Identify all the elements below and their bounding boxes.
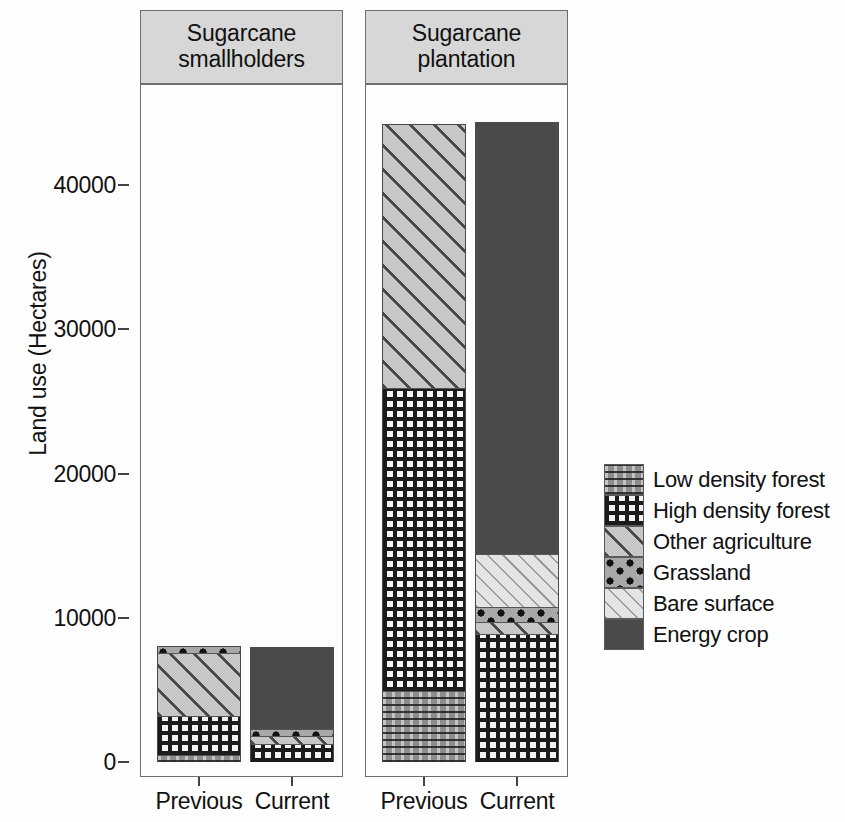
panel-header-plantation: Sugarcane plantation [365, 10, 568, 84]
x-axis-tick-mark [516, 777, 518, 786]
legend-swatch-other-agriculture [604, 526, 644, 557]
legend-swatch-high-density-forest [604, 495, 644, 526]
y-axis-tick-label: 20000 [54, 460, 116, 487]
bar-segment-other-agriculture [383, 125, 465, 389]
legend-label: Low density forest [653, 467, 825, 493]
x-axis-tick-mark [198, 777, 200, 786]
legend-item-other-agriculture: Other agriculture [604, 526, 830, 557]
legend-label: High density forest [653, 498, 830, 524]
bar-segment-bare-surface [476, 555, 558, 608]
y-axis-tick-mark [118, 473, 129, 475]
legend-item-high-density-forest: High density forest [604, 495, 830, 526]
bar-segment-other-agriculture [158, 654, 240, 718]
y-axis-tick-label: 10000 [54, 604, 116, 631]
y-axis-tick-mark [118, 328, 129, 330]
bar-segment-other-agriculture [476, 623, 558, 635]
panel-title-line1: Sugarcane [187, 20, 296, 46]
bar-segment-grassland [476, 608, 558, 623]
panel-header-smallholders: Sugarcane smallholders [140, 10, 343, 84]
bar-segment-low-density-forest [383, 692, 465, 762]
legend-swatch-low-density-forest [604, 464, 644, 495]
bar-segment-high-density-forest [476, 635, 558, 762]
y-axis-tick-label: 0 [104, 749, 117, 776]
bar-segment-grassland [251, 730, 333, 737]
y-axis-tick-mark [118, 617, 129, 619]
stacked-bar [475, 122, 559, 762]
bar-segment-high-density-forest [158, 717, 240, 756]
bar-segment-energy-crop [476, 123, 558, 555]
panel-title-line2: smallholders [178, 46, 305, 72]
chart-root: Land use (Hectares) 01000020000300004000… [0, 0, 845, 822]
panel-title-line1: Sugarcane [412, 20, 521, 46]
panel-title-line2: plantation [418, 46, 516, 72]
x-axis-label: Current [230, 788, 354, 815]
legend-swatch-energy-crop [604, 619, 644, 650]
legend-swatch-bare-surface [604, 588, 644, 619]
legend-item-bare-surface: Bare surface [604, 588, 830, 619]
stacked-bar [250, 647, 334, 762]
bar-segment-high-density-forest [251, 745, 333, 762]
bar-segment-high-density-forest [383, 389, 465, 692]
y-axis: 010000200003000040000 [0, 0, 132, 822]
legend-label: Bare surface [653, 591, 774, 617]
bar-segment-energy-crop [251, 648, 333, 731]
y-axis-tick-label: 30000 [54, 316, 116, 343]
stacked-bar [382, 124, 466, 762]
bar-segment-other-agriculture [251, 737, 333, 745]
x-axis-label: Current [455, 788, 579, 815]
y-axis-tick-mark [118, 761, 129, 763]
legend-label: Other agriculture [653, 529, 812, 555]
chart-legend: Low density forestHigh density forestOth… [604, 464, 830, 650]
stacked-bar [157, 646, 241, 762]
legend-item-energy-crop: Energy crop [604, 619, 830, 650]
legend-item-low-density-forest: Low density forest [604, 464, 830, 495]
x-axis-tick-mark [423, 777, 425, 786]
x-axis-tick-mark [291, 777, 293, 786]
legend-label: Energy crop [653, 622, 768, 648]
bar-segment-grassland [158, 647, 240, 653]
bar-segment-low-density-forest [158, 756, 240, 762]
legend-label: Grassland [653, 560, 751, 586]
y-axis-tick-mark [118, 184, 129, 186]
legend-item-grassland: Grassland [604, 557, 830, 588]
y-axis-tick-label: 40000 [54, 172, 116, 199]
legend-swatch-grassland [604, 557, 644, 588]
